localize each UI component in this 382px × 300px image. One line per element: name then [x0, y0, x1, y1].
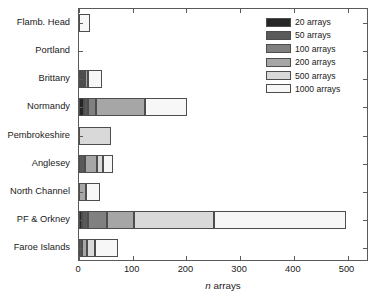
x-axis-tick-label: 400: [285, 264, 301, 274]
bar-row: [79, 127, 369, 145]
legend-item: 100 arrays: [266, 43, 361, 55]
x-axis-tick-label: 100: [124, 264, 140, 274]
bar-row: [79, 98, 369, 116]
y-axis-category-label: Flamb. Head: [17, 17, 70, 27]
x-axis-tick-label: 0: [75, 264, 80, 274]
legend-swatch: [266, 31, 291, 40]
y-axis-tick-mark-right: [363, 136, 367, 137]
y-axis-tick-mark-right: [363, 248, 367, 249]
y-axis-tick-mark: [79, 51, 83, 52]
y-axis-tick-mark: [79, 164, 83, 165]
bar-segment: [85, 155, 97, 173]
y-axis-tick-mark-right: [363, 79, 367, 80]
legend-swatch: [266, 84, 291, 93]
x-axis-tick-mark-top: [240, 9, 241, 13]
y-axis-category-label: Pembrokeshire: [7, 130, 70, 140]
bar-row: [79, 211, 369, 229]
x-axis-tick-mark: [133, 256, 134, 260]
bar-segment: [103, 155, 113, 173]
legend-label: 50 arrays: [295, 30, 331, 40]
bar-segment: [107, 211, 134, 229]
legend-item: 50 arrays: [266, 29, 361, 41]
y-axis-tick-mark-right: [363, 51, 367, 52]
legend-label: 500 arrays: [295, 71, 336, 81]
chart-legend: 20 arrays50 arrays100 arrays200 arrays50…: [264, 14, 363, 99]
y-axis-category-label: Anglesey: [32, 158, 70, 168]
x-axis-tick-mark: [294, 256, 295, 260]
chart-figure: Flamb. HeadPortlandBrittanyNormandyPembr…: [0, 0, 382, 300]
bar-segment: [88, 70, 101, 88]
legend-item: 200 arrays: [266, 56, 361, 68]
y-axis-tick-mark: [79, 192, 83, 193]
x-axis-title-rest: arrays: [211, 280, 241, 291]
legend-item: 1000 arrays: [266, 83, 361, 95]
bar-segment: [88, 98, 96, 116]
x-axis-tick-mark-top: [294, 9, 295, 13]
bar-segment: [134, 211, 215, 229]
x-axis-tick-mark-top: [348, 9, 349, 13]
y-axis-category-label: Portland: [35, 45, 70, 55]
y-axis-category-label: Normandy: [27, 101, 70, 111]
y-axis-tick-mark: [79, 79, 83, 80]
bar-segment: [214, 211, 346, 229]
legend-swatch: [266, 71, 291, 80]
x-axis-tick-label: 300: [231, 264, 247, 274]
x-axis-tick-mark: [186, 256, 187, 260]
legend-swatch: [266, 18, 291, 27]
bar-row: [79, 183, 369, 201]
y-axis-category-label: PF & Orkney: [17, 214, 70, 224]
bar-segment: [88, 211, 107, 229]
x-axis-tick-mark-top: [186, 9, 187, 13]
bar-segment: [79, 127, 111, 145]
y-axis-tick-mark: [79, 248, 83, 249]
y-axis-tick-mark-right: [363, 164, 367, 165]
x-axis-tick-label: 500: [339, 264, 355, 274]
bar-segment: [95, 239, 118, 257]
y-axis-tick-mark-right: [363, 107, 367, 108]
y-axis-category-labels: Flamb. HeadPortlandBrittanyNormandyPembr…: [0, 8, 74, 261]
x-axis-tick-mark: [240, 256, 241, 260]
bar-segment: [145, 98, 188, 116]
legend-item: 500 arrays: [266, 70, 361, 82]
legend-label: 200 arrays: [295, 57, 336, 67]
y-axis-tick-mark: [79, 107, 83, 108]
legend-label: 100 arrays: [295, 44, 336, 54]
x-axis-tick-mark: [79, 256, 80, 260]
y-axis-category-label: Brittany: [38, 73, 70, 83]
x-axis-tick-mark-top: [79, 9, 80, 13]
legend-label: 20 arrays: [295, 17, 331, 27]
y-axis-category-label: North Channel: [10, 186, 70, 196]
bar-row: [79, 239, 369, 257]
y-axis-category-label: Faroe Islands: [14, 242, 70, 252]
x-axis-title: n arrays: [78, 280, 368, 291]
bar-segment: [96, 98, 144, 116]
bar-row: [79, 155, 369, 173]
x-axis-tick-mark-top: [133, 9, 134, 13]
x-axis-tick-mark: [348, 256, 349, 260]
y-axis-tick-mark-right: [363, 192, 367, 193]
legend-swatch: [266, 44, 291, 53]
bar-segment: [87, 239, 96, 257]
legend-item: 20 arrays: [266, 16, 361, 28]
y-axis-tick-mark-right: [363, 220, 367, 221]
y-axis-tick-mark: [79, 220, 83, 221]
y-axis-tick-mark: [79, 136, 83, 137]
x-axis-tick-label: 200: [178, 264, 194, 274]
y-axis-tick-mark: [79, 23, 83, 24]
legend-swatch: [266, 58, 291, 67]
y-axis-tick-mark-right: [363, 23, 367, 24]
legend-label: 1000 arrays: [295, 84, 340, 94]
bar-segment: [86, 183, 100, 201]
